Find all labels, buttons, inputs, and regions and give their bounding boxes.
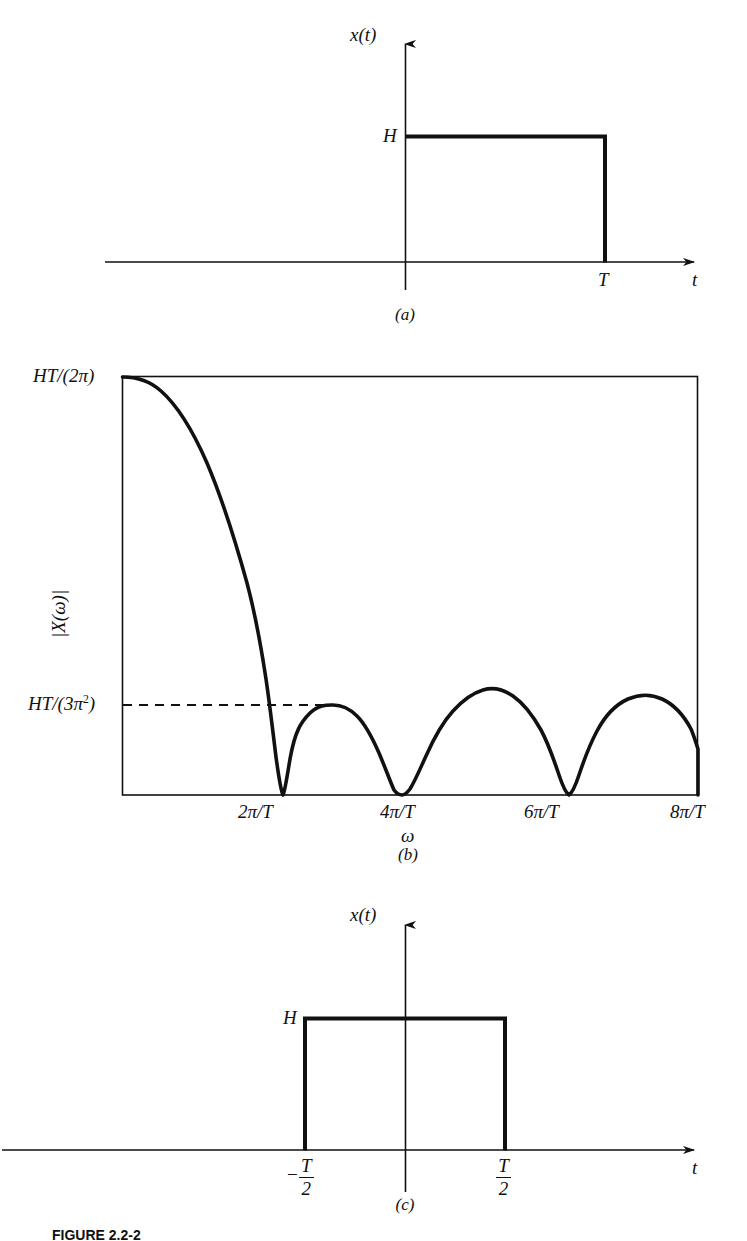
panel-a-drawing <box>105 44 694 290</box>
panel-a-tick-label-T: T <box>598 270 609 289</box>
panel-b-caption: (b) <box>348 846 468 863</box>
panel-b-peak-label: HT/(2π) <box>33 366 94 385</box>
panel-a-y-axis-label: x(t) <box>350 25 376 44</box>
panel-c-x-axis-label: t <box>692 1158 697 1177</box>
panel-c-amplitude-label: H <box>283 1008 297 1027</box>
panel-b-y-axis-label: |X(ω)| <box>48 590 70 638</box>
panel-c-tick-label-negative-half-T: − T 2 <box>287 1156 314 1199</box>
panel-b-tick-label-6pi-T: 6π/T <box>524 802 559 821</box>
figure-number-caption: FIGURE 2.2-2 <box>0 1227 747 1241</box>
panel-a-pulse-trace <box>406 137 606 263</box>
panel-c-tick-left-denominator: 2 <box>299 1179 313 1199</box>
panel-c-drawing <box>2 925 694 1192</box>
panel-b-sidelobe-label-prefix: HT/(3π <box>28 693 83 714</box>
panel-c-y-axis-label: x(t) <box>350 905 376 924</box>
panel-a-amplitude-label: H <box>383 126 397 145</box>
figure-drawing <box>0 0 747 1241</box>
panel-c-tick-left-numerator: T <box>299 1156 314 1176</box>
panel-c-caption: (c) <box>345 1196 465 1213</box>
panel-b-x-axis-label: ω <box>401 826 414 845</box>
panel-b-sidelobe-label: HT/(3π2) <box>28 694 95 713</box>
panel-b-tick-label-4pi-T: 4π/T <box>380 802 415 821</box>
panel-c-tick-label-half-T: T 2 <box>496 1156 511 1199</box>
panel-c-tick-fraction-left: T 2 <box>299 1156 314 1199</box>
panel-b-drawing <box>123 377 699 796</box>
panel-b-sidelobe-label-suffix: ) <box>89 693 95 714</box>
figure-root: x(t) H T t (a) HT/(2π) HT/(3π2) |X(ω)| 2… <box>0 0 747 1241</box>
figure-number-text: FIGURE 2.2-2 <box>0 1227 747 1241</box>
panel-a-x-axis-label: t <box>692 270 697 289</box>
panel-c-pulse-trace <box>305 1019 505 1151</box>
panel-b-tick-label-8pi-T: 8π/T <box>670 802 705 821</box>
panel-c-tick-right-denominator: 2 <box>497 1179 511 1199</box>
panel-c-tick-right-numerator: T <box>496 1156 511 1176</box>
panel-a-caption: (a) <box>345 306 465 323</box>
panel-b-tick-label-2pi-T: 2π/T <box>238 802 273 821</box>
panel-c-tick-minus-sign: − <box>287 1165 298 1184</box>
panel-b-spectrum-curve <box>123 377 699 795</box>
panel-b-plot-frame <box>123 377 698 796</box>
panel-c-tick-fraction-right: T 2 <box>496 1156 511 1199</box>
